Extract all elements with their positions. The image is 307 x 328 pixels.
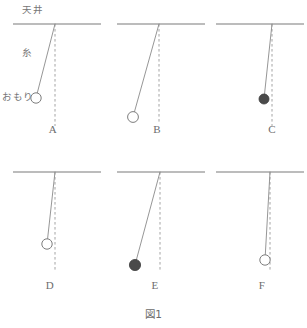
pendulum-panel-d <box>13 172 101 272</box>
panel-letter-f: F <box>259 279 266 291</box>
ceiling-annotation-label: 天井 <box>22 2 43 16</box>
pendulum-string <box>264 24 272 99</box>
pendulum-figure: 天井 糸 おもり ABCDEF 図1 <box>0 0 307 328</box>
panel-letter-c: C <box>268 123 276 135</box>
panel-letter-a: A <box>49 123 57 135</box>
panel-letter-e: E <box>151 279 158 291</box>
string-annotation-label: 糸 <box>22 45 33 59</box>
pendulum-string <box>135 172 160 265</box>
pendulum-string <box>47 172 55 244</box>
pendulum-panel-e <box>117 172 205 272</box>
panels-layer <box>13 24 304 272</box>
pendulum-panel-f <box>216 172 304 272</box>
bob-annotation-label: おもり <box>2 89 34 103</box>
pendulum-panel-a <box>13 24 101 126</box>
pendulum-string <box>265 172 270 260</box>
pendulum-bob-open <box>42 239 52 249</box>
pendulum-string <box>36 24 55 98</box>
pendulum-bob-open <box>128 112 139 123</box>
figure-caption: 図1 <box>0 306 307 321</box>
pendulum-bob-filled <box>129 259 140 270</box>
panel-letter-d: D <box>46 279 54 291</box>
pendulum-string <box>133 24 159 117</box>
pendulum-bob-filled <box>259 94 269 104</box>
pendulum-bob-open <box>260 255 270 265</box>
pendulum-panel-c <box>216 24 304 126</box>
pendulum-panel-b <box>117 24 205 124</box>
panel-letter-b: B <box>153 123 161 135</box>
